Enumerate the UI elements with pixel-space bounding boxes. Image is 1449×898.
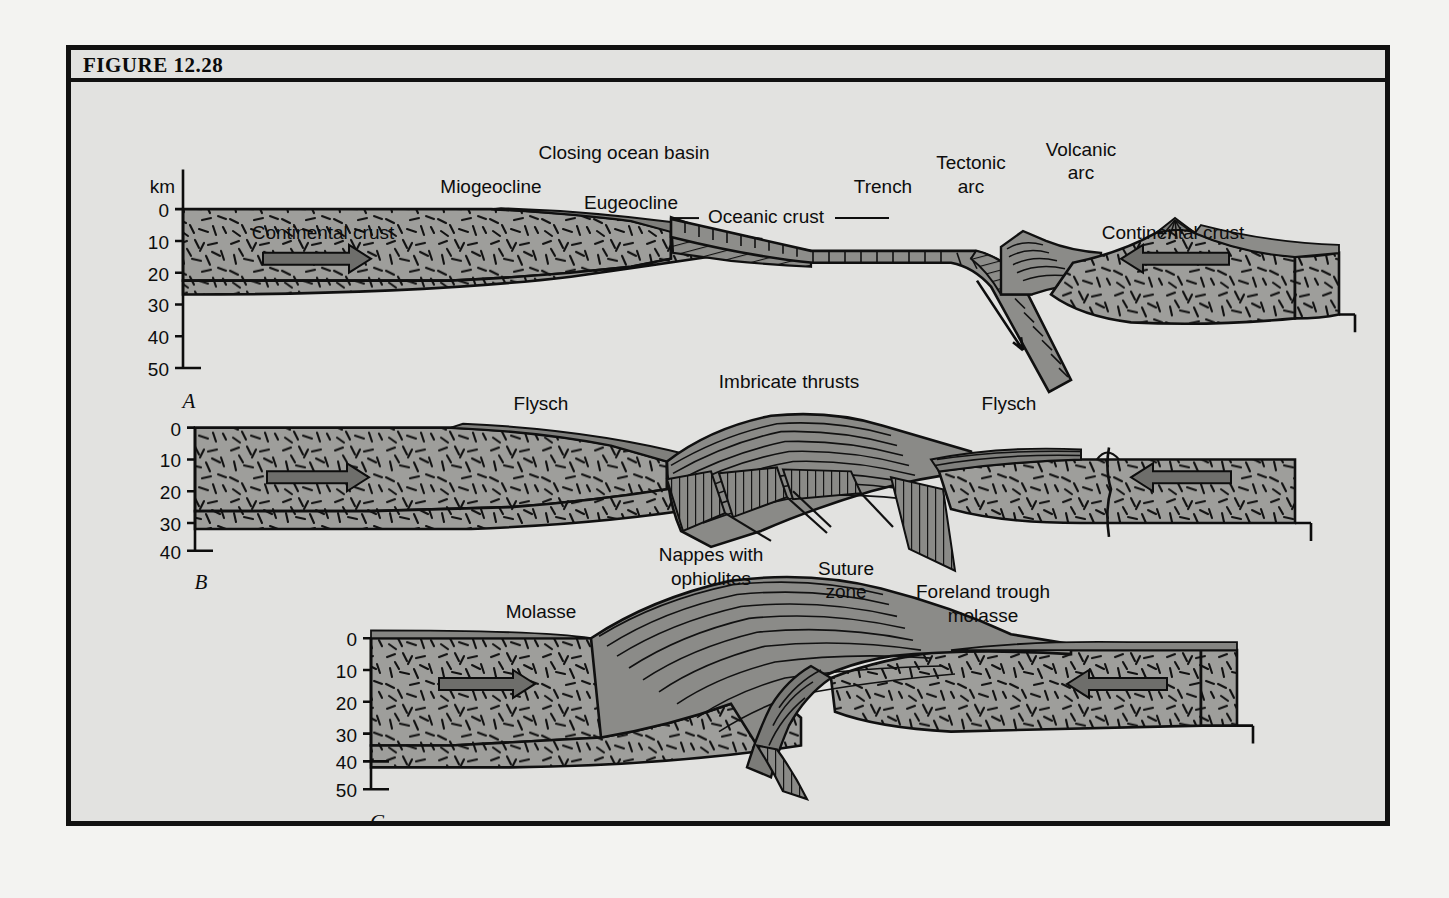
panel-a-axis-right-end	[1339, 314, 1355, 332]
closing-ocean-basin-label: Closing ocean basin	[539, 143, 710, 164]
foreland-label-1: Foreland trough	[916, 582, 1050, 603]
volcanic-arc-label-2: arc	[1068, 162, 1094, 183]
panel-a-tick-50: 50	[148, 359, 169, 380]
panel-b-tick-30: 30	[160, 514, 181, 535]
panel-c-axis-right-end	[1237, 726, 1253, 744]
figure-header-bar: FIGURE 12.28	[71, 50, 1385, 82]
panel-b-crust-right	[939, 459, 1295, 523]
suture-label-2: zone	[825, 582, 866, 603]
panel-a-tick-0: 0	[158, 200, 169, 221]
panel-b-axis-right-end	[1295, 523, 1311, 541]
panel-a-tick-40: 40	[148, 327, 169, 348]
nappes-label-2: ophiolites	[671, 568, 751, 589]
nappes-label-1: Nappes with	[659, 544, 763, 565]
panel-b-tick-40: 40	[160, 542, 181, 563]
panel-c-tick-20: 20	[336, 693, 357, 714]
panel-b-tick-0: 0	[170, 419, 181, 440]
volcanic-arc-label-1: Volcanic	[1046, 139, 1117, 160]
panel-a-tick-10: 10	[148, 232, 169, 253]
tectonic-arc-label-2: arc	[958, 176, 984, 197]
panel-b-tick-10: 10	[160, 450, 181, 471]
continental-crust-right-extension	[1295, 253, 1339, 319]
page-root: FIGURE 12.28	[0, 0, 1449, 898]
panel-a-letter: A	[181, 389, 196, 413]
flysch-left-label: Flysch	[514, 393, 569, 414]
panel-c-letter: C	[370, 810, 385, 821]
figure-frame: FIGURE 12.28	[66, 45, 1390, 826]
molasse-label: Molasse	[506, 601, 577, 622]
cross-section-diagram: km 0 10 20 30 40 50 A Closing ocean basi…	[71, 82, 1385, 821]
panel-b-letter: B	[195, 570, 208, 594]
panel-c-molasse-left	[371, 630, 591, 638]
trench-label: Trench	[854, 176, 912, 197]
panel-b-thrust-sheet-3	[783, 469, 861, 499]
continental-crust-right-label: Continental crust	[1102, 222, 1245, 243]
panel-a-tick-20: 20	[148, 264, 169, 285]
panel-c-tick-0: 0	[346, 629, 357, 650]
suture-label-1: Suture	[818, 558, 874, 579]
flysch-right-label: Flysch	[982, 393, 1037, 414]
panel-a-tick-30: 30	[148, 295, 169, 316]
imbricate-thrusts-label: Imbricate thrusts	[719, 371, 859, 392]
panel-b-tick-20: 20	[160, 482, 181, 503]
oceanic-crust-label: Oceanic crust	[708, 206, 825, 227]
panel-c: 0 10 20 30 40 50 C Molasse Nappes with o…	[336, 544, 1253, 821]
continental-crust-left-label: Continental crust	[252, 222, 395, 243]
panel-c-tick-40: 40	[336, 752, 357, 773]
foreland-label-2: molasse	[948, 605, 1019, 626]
figure-number-label: FIGURE 12.28	[83, 53, 223, 78]
figure-body: km 0 10 20 30 40 50 A Closing ocean basi…	[71, 82, 1385, 821]
panel-c-tick-30: 30	[336, 725, 357, 746]
miogeocline-label: Miogeocline	[440, 176, 541, 197]
panel-c-tick-50: 50	[336, 780, 357, 801]
panel-c-crust-right-ext	[1201, 650, 1237, 725]
tectonic-arc-label-1: Tectonic	[936, 152, 1006, 173]
panel-a-unit-label: km	[150, 176, 175, 197]
eugeocline-label: Eugeocline	[584, 192, 678, 213]
panel-c-tick-10: 10	[336, 661, 357, 682]
